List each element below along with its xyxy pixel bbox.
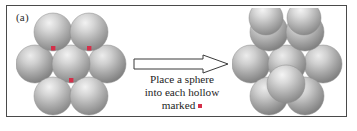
caption-line-1: Place a sphere: [128, 73, 236, 86]
left-sphere-cluster: [16, 12, 136, 116]
right-sphere-cluster: [232, 8, 352, 118]
hollow-marker-bottom: [69, 78, 73, 82]
sphere-row-middle: [16, 45, 126, 83]
caption-text: Place a sphere into each hollow marked: [128, 73, 236, 113]
process-arrow: [133, 54, 229, 74]
hollow-marker-right: [87, 46, 91, 50]
arrow-right-icon: [134, 55, 228, 73]
figure-panel-a: (a): [0, 0, 357, 131]
red-marker-dot-icon: [198, 104, 202, 108]
caption-line-3-text: marked: [162, 99, 196, 111]
caption-line-3: marked: [128, 99, 236, 112]
caption-line-2: into each hollow: [128, 86, 236, 99]
hollow-marker-left: [51, 46, 55, 50]
added-sphere-bottom: [267, 65, 305, 103]
